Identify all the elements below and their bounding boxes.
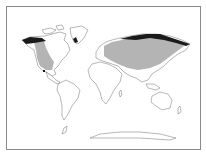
- south-america: [57, 80, 80, 120]
- africa: [88, 62, 122, 104]
- antarctic-peninsula: [62, 126, 67, 134]
- southeast-asia-islands: [146, 84, 160, 90]
- madagascar: [119, 90, 122, 97]
- australia: [151, 92, 172, 110]
- antarctica: [90, 132, 176, 140]
- greenland: [70, 26, 88, 44]
- mexico-spot: [43, 70, 45, 72]
- new-zealand: [178, 106, 181, 114]
- world-map: [0, 0, 206, 155]
